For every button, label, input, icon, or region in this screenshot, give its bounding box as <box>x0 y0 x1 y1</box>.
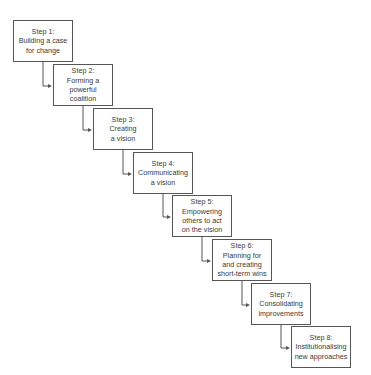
step-5-line-3: on the vision <box>182 225 222 234</box>
step-4-box: Step 4: Communicating a vision <box>133 152 193 194</box>
step-4-line-2: a vision <box>151 178 175 187</box>
step-6-box: Step 6: Planning for and creating short-… <box>212 239 272 281</box>
step-1-label: Step 1: <box>32 27 55 36</box>
change-process-diagram: Step 1: Building a case for change Step … <box>0 0 371 375</box>
step-5-box: Step 5: Empowering others to act on the … <box>172 195 232 237</box>
arrowhead-icon <box>88 128 92 132</box>
arrowhead-icon <box>48 84 52 88</box>
step-1-box: Step 1: Building a case for change <box>13 20 73 62</box>
arrowhead-icon <box>246 303 250 307</box>
step-1-line-2: for change <box>26 46 60 55</box>
step-3-line-1: Creating <box>109 124 136 133</box>
step-2-label: Step 2: <box>72 66 95 75</box>
arrowhead-icon <box>207 259 211 263</box>
arrowhead-icon <box>286 346 290 350</box>
step-8-box: Step 8: Institutionalising new approache… <box>291 326 351 368</box>
arrowhead-icon <box>167 215 171 219</box>
step-3-label: Step 3: <box>112 115 135 124</box>
step-6-line-3: short-term wins <box>217 269 266 278</box>
step-4-line-1: Communicating <box>138 168 188 177</box>
step-7-box: Step 7: Consolidating improvements <box>251 283 311 325</box>
arrowhead-icon <box>128 172 132 176</box>
step-5-line-2: others to act <box>182 216 222 225</box>
step-2-line-2: powerful <box>69 85 96 94</box>
connector-line <box>163 194 168 217</box>
step-5-label: Step 5: <box>191 197 214 206</box>
step-8-line-1: Institutionalising <box>295 342 346 351</box>
step-7-line-2: improvements <box>258 309 303 318</box>
step-7-line-1: Consolidating <box>259 299 303 308</box>
step-4-label: Step 4: <box>152 159 175 168</box>
step-2-line-1: Forming a <box>67 76 99 85</box>
connector-line <box>43 62 49 86</box>
step-6-label: Step 6: <box>231 241 254 250</box>
step-7-label: Step 7: <box>270 290 293 299</box>
step-8-line-2: new approaches <box>295 352 348 361</box>
connector-line <box>242 281 247 305</box>
step-5-line-1: Empowering <box>182 207 222 216</box>
step-3-box: Step 3: Creating a vision <box>93 108 153 150</box>
connector-line <box>83 106 89 130</box>
step-3-line-2: a vision <box>111 134 135 143</box>
connector-line <box>123 150 129 174</box>
step-2-box: Step 2: Forming a powerful coalition <box>53 64 113 106</box>
step-1-line-1: Building a case <box>19 36 68 45</box>
step-8-label: Step 8: <box>310 333 333 342</box>
step-2-line-3: coalition <box>70 94 96 103</box>
step-6-line-1: Planning for <box>223 251 261 260</box>
connector-line <box>202 237 208 261</box>
step-6-line-2: and creating <box>222 260 262 269</box>
connector-line <box>281 325 287 348</box>
